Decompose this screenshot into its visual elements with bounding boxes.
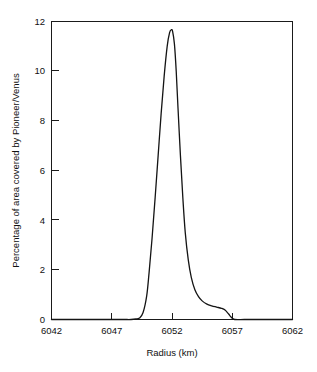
x-axis-ticks: [52, 313, 293, 320]
y-tick-label-0: 0: [40, 314, 45, 325]
y-tick-label-10: 10: [34, 65, 45, 76]
plot-frame: [52, 22, 293, 320]
chart-figure: 6042 6047 6052 6057 6062 0 2 4 6 8 10 12…: [0, 0, 317, 372]
x-tick-label-1: 6047: [101, 325, 122, 336]
y-tick-label-2: 2: [40, 264, 45, 275]
y-tick-labels: 0 2 4 6 8 10 12: [34, 16, 45, 325]
chart-canvas: 6042 6047 6052 6057 6062 0 2 4 6 8 10 12…: [0, 0, 317, 372]
x-axis-title: Radius (km): [146, 347, 197, 358]
x-tick-labels: 6042 6047 6052 6057 6062: [41, 325, 303, 336]
data-series-line: [52, 30, 293, 320]
x-tick-label-3: 6057: [222, 325, 243, 336]
y-tick-label-8: 8: [40, 115, 45, 126]
y-axis-ticks: [52, 22, 59, 320]
x-tick-label-0: 6042: [41, 325, 62, 336]
y-axis-title: Percentage of area covered by Pioneer/Ve…: [10, 73, 21, 268]
y-tick-label-6: 6: [40, 165, 45, 176]
y-tick-label-4: 4: [40, 215, 45, 226]
x-tick-label-4: 6062: [282, 325, 303, 336]
x-tick-label-2: 6052: [161, 325, 182, 336]
y-tick-label-12: 12: [34, 16, 45, 27]
